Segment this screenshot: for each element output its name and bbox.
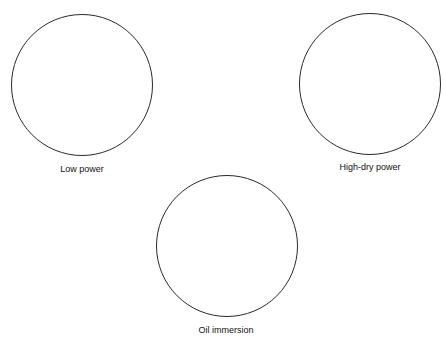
oil-immersion-label: Oil immersion bbox=[146, 325, 306, 335]
oil-immersion-field-circle bbox=[156, 175, 298, 317]
low-power-field-circle bbox=[11, 14, 153, 156]
low-power-label: Low power bbox=[2, 164, 162, 174]
high-dry-power-field-circle bbox=[299, 13, 441, 155]
high-dry-power-label: High-dry power bbox=[290, 162, 446, 172]
